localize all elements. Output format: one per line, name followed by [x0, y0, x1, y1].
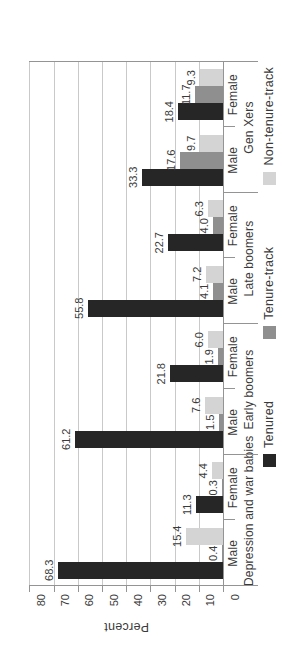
legend: TenuredTenure-trackNon-tenure-track — [261, 67, 277, 467]
y-tick-40 — [126, 586, 127, 592]
generation-separator — [223, 323, 258, 324]
value-label: 21.8 — [155, 349, 167, 399]
y-tick-label-80: 80 — [34, 594, 49, 627]
bar-tenured-6 — [142, 169, 223, 186]
bar-non-tenure-track-4 — [206, 266, 223, 283]
bar-tenured-0 — [58, 562, 223, 579]
male-female-separator — [223, 520, 235, 521]
value-label: 6.0 — [193, 315, 205, 365]
bar-tenure-track-2 — [219, 414, 223, 431]
value-label: 7.2 — [191, 249, 203, 299]
legend-swatch-tenured — [263, 454, 276, 467]
gridline-80 — [29, 62, 30, 586]
category-label-female-1: Female — [226, 455, 241, 521]
category-label-male-2: Male — [226, 390, 241, 456]
value-label: 68.3 — [43, 545, 55, 595]
y-tick-label-60: 60 — [82, 594, 97, 627]
generation-label-1: Early boomers — [242, 324, 257, 455]
bar-non-tenure-track-0 — [186, 528, 223, 545]
generation-label-2: Late boomers — [242, 193, 257, 324]
bar-non-tenure-track-1 — [212, 462, 223, 479]
y-axis-title: Percent — [97, 619, 157, 634]
y-tick-50 — [102, 586, 103, 592]
category-label-female-3: Female — [226, 324, 241, 390]
category-label-male-4: Male — [226, 259, 241, 325]
bar-tenured-2 — [75, 431, 223, 448]
value-label: 18.4 — [163, 87, 175, 137]
y-tick-10 — [199, 586, 200, 592]
value-label: 11.3 — [181, 480, 193, 530]
legend-item-non-tenure-track: Non-tenure-track — [262, 67, 276, 185]
generation-label-3: Gen Xers — [242, 62, 257, 193]
value-label: 61.2 — [60, 414, 72, 464]
value-label: 7.6 — [190, 380, 202, 430]
y-tick-label-70: 70 — [58, 594, 73, 627]
category-label-female-7: Female — [226, 62, 241, 128]
bar-non-tenure-track-5 — [208, 200, 223, 217]
y-tick-label-0: 0 — [228, 594, 243, 627]
male-female-separator — [223, 389, 235, 390]
bar-non-tenure-track-7 — [200, 69, 223, 86]
legend-swatch-non-tenure-track — [263, 172, 276, 185]
legend-label-tenure-track: Tenure-track — [262, 247, 276, 320]
value-label: 9.7 — [185, 118, 197, 168]
male-female-separator — [223, 127, 235, 128]
category-label-male-0: Male — [226, 521, 241, 587]
value-label: 6.3 — [193, 184, 205, 234]
generation-separator — [223, 454, 258, 455]
value-label: 9.3 — [185, 53, 197, 103]
legend-item-tenured: Tenured — [262, 401, 276, 467]
bar-tenure-track-1 — [222, 479, 223, 496]
chart-landscape-canvas: 0102030405060708068.30.415.4Male11.30.34… — [0, 0, 282, 667]
y-tick-0 — [223, 586, 224, 592]
legend-label-tenured: Tenured — [262, 401, 276, 448]
bar-tenure-track-7 — [195, 86, 223, 103]
bar-tenure-track-3 — [218, 348, 223, 365]
bar-non-tenure-track-6 — [200, 135, 223, 152]
male-female-separator — [223, 258, 235, 259]
bar-tenure-track-5 — [213, 217, 223, 234]
value-label: 33.3 — [127, 152, 139, 202]
rotated-bar-chart-figure: 0102030405060708068.30.415.4Male11.30.34… — [0, 0, 282, 667]
gridline-40 — [126, 62, 127, 586]
y-tick-30 — [150, 586, 151, 592]
bar-tenure-track-0 — [222, 545, 223, 562]
y-tick-label-20: 20 — [179, 594, 194, 627]
value-label: 22.7 — [153, 218, 165, 268]
plot-right-border — [29, 61, 258, 62]
value-label: 55.8 — [73, 283, 85, 333]
value-label: 17.6 — [165, 135, 177, 185]
category-label-male-6: Male — [226, 128, 241, 194]
bar-tenure-track-4 — [213, 283, 223, 300]
bar-tenured-5 — [168, 234, 223, 251]
category-label-female-5: Female — [226, 193, 241, 259]
y-tick-20 — [175, 586, 176, 592]
value-label: 4.4 — [197, 446, 209, 496]
legend-swatch-tenure-track — [263, 326, 276, 339]
y-tick-label-30: 30 — [155, 594, 170, 627]
generation-separator — [223, 192, 258, 193]
bar-non-tenure-track-2 — [205, 397, 223, 414]
y-tick-60 — [78, 586, 79, 592]
generation-label-0: Depression and war babies — [242, 455, 257, 586]
gridline-70 — [54, 62, 55, 586]
legend-item-tenure-track: Tenure-track — [262, 247, 276, 339]
gridline-30 — [150, 62, 151, 586]
gridline-50 — [102, 62, 103, 586]
y-tick-80 — [29, 586, 30, 592]
bar-non-tenure-track-3 — [208, 331, 223, 348]
y-tick-label-10: 10 — [203, 594, 218, 627]
legend-label-non-tenure-track: Non-tenure-track — [262, 67, 276, 166]
